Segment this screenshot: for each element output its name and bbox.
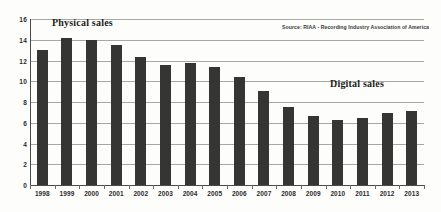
- y-tick-label-8: 8: [5, 99, 27, 106]
- y-tick-label-10: 10: [5, 78, 27, 85]
- x-tick-2007: [252, 185, 253, 189]
- bar-slot: [301, 19, 326, 185]
- x-tick-2000: [79, 185, 80, 189]
- bar-2005: [209, 67, 220, 185]
- bar-1998: [37, 50, 48, 185]
- bar-1999: [61, 38, 72, 185]
- x-tick-2011: [350, 185, 351, 189]
- x-tick-2004: [178, 185, 179, 189]
- y-tick-label-0: 0: [5, 182, 27, 189]
- x-tick-label-2006: 2006: [232, 190, 247, 197]
- x-tick-2005: [202, 185, 203, 189]
- x-tick-2001: [104, 185, 105, 189]
- x-tick-2002: [129, 185, 130, 189]
- bar-2011: [357, 118, 368, 185]
- source-note: Source: RIAA - Recording Industry Associ…: [282, 24, 429, 30]
- x-axis-tick-labels: 1998199920002001200220032004200520062007…: [30, 190, 424, 204]
- bar-2006: [234, 77, 245, 185]
- x-tick-label-2008: 2008: [281, 190, 296, 197]
- x-tick-2012: [375, 185, 376, 189]
- bar-slot: [178, 19, 203, 185]
- x-tick-label-2001: 2001: [109, 190, 124, 197]
- y-tick-label-4: 4: [5, 140, 27, 147]
- bar-slot: [276, 19, 301, 185]
- bar-2008: [283, 107, 294, 185]
- x-tick-2008: [276, 185, 277, 189]
- x-tick-2009: [301, 185, 302, 189]
- annotation-physical-sales: Physical sales: [52, 17, 113, 28]
- bar-slot: [129, 19, 154, 185]
- x-tick-label-1999: 1999: [60, 190, 75, 197]
- bar-2009: [308, 116, 319, 185]
- x-tick-label-2007: 2007: [257, 190, 272, 197]
- y-axis-line: [30, 19, 31, 185]
- bar-2004: [185, 63, 196, 185]
- x-tick-label-2000: 2000: [84, 190, 99, 197]
- chart-figure: 0246810121416 19981999200020012002200320…: [0, 0, 441, 212]
- bar-slot: [350, 19, 375, 185]
- bar-2002: [135, 57, 146, 185]
- x-tick-2010: [326, 185, 327, 189]
- y-tick-label-2: 2: [5, 161, 27, 168]
- x-tick-label-2012: 2012: [380, 190, 395, 197]
- x-tick-label-2010: 2010: [330, 190, 345, 197]
- bar-2001: [111, 45, 122, 185]
- y-tick-label-12: 12: [5, 57, 27, 64]
- x-tick-label-2011: 2011: [355, 190, 370, 197]
- bar-slot: [227, 19, 252, 185]
- y-tick-label-16: 16: [5, 16, 27, 23]
- bar-slot: [202, 19, 227, 185]
- bar-slot: [55, 19, 80, 185]
- x-tick-1998: [30, 185, 31, 189]
- x-tick-1999: [55, 185, 56, 189]
- bar-slot: [79, 19, 104, 185]
- bar-slot: [252, 19, 277, 185]
- x-axis-ticks: [30, 185, 424, 189]
- bar-slot: [153, 19, 178, 185]
- x-tick-label-2013: 2013: [404, 190, 419, 197]
- bar-2007: [258, 91, 269, 185]
- x-tick-label-2002: 2002: [133, 190, 148, 197]
- y-tick-label-6: 6: [5, 119, 27, 126]
- x-tick-label-2005: 2005: [207, 190, 222, 197]
- x-tick-label-1998: 1998: [35, 190, 50, 197]
- x-tick-label-2009: 2009: [306, 190, 321, 197]
- bar-2000: [86, 40, 97, 185]
- bar-slot: [104, 19, 129, 185]
- bar-2012: [382, 113, 393, 185]
- bar-slot: [375, 19, 400, 185]
- bar-slot: [326, 19, 351, 185]
- y-axis-tick-labels: 0246810121416: [0, 0, 27, 212]
- x-tick-2006: [227, 185, 228, 189]
- x-tick-label-2004: 2004: [183, 190, 198, 197]
- bar-2013: [406, 111, 417, 185]
- bar-2010: [332, 120, 343, 185]
- x-tick-2003: [153, 185, 154, 189]
- x-tick-2013: [399, 185, 400, 189]
- bar-slot: [399, 19, 424, 185]
- bar-2003: [160, 65, 171, 185]
- annotation-digital-sales: Digital sales: [330, 78, 384, 89]
- x-tick-end: [424, 185, 425, 189]
- bar-slot: [30, 19, 55, 185]
- x-tick-label-2003: 2003: [158, 190, 173, 197]
- plot-area: [30, 19, 424, 185]
- y-tick-label-14: 14: [5, 36, 27, 43]
